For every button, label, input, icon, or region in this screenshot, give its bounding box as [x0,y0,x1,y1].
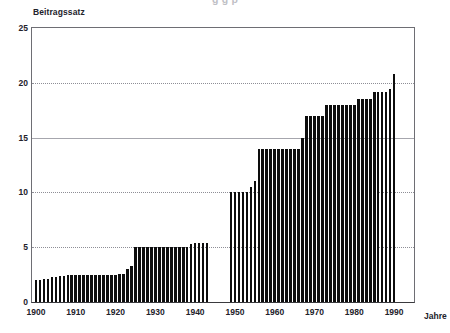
bar-1930 [154,247,157,302]
bar-1950 [234,192,237,302]
bar-1963 [285,149,288,302]
clipped-heading-text: g g p [0,0,450,5]
bar-1972 [321,116,324,302]
bar-1902 [43,279,46,302]
bar-1924 [130,266,133,302]
bar-1906 [59,276,62,302]
y-tick-5: 5 [23,242,28,252]
bar-1912 [82,275,85,302]
y-tick-15: 15 [19,133,28,143]
bar-1987 [381,92,384,302]
bar-1951 [238,192,241,302]
bar-1989 [389,89,392,302]
bar-1939 [190,244,193,302]
bar-1938 [186,247,189,302]
bar-1976 [337,105,340,302]
plot-area: 0510152025 19001910192019301940195019601… [31,27,415,303]
bar-1957 [261,149,264,302]
bar-1926 [138,247,141,302]
bar-1925 [134,247,137,302]
bar-1905 [55,277,58,302]
bar-1942 [202,243,205,302]
bar-1967 [301,138,304,302]
bar-1953 [246,192,249,302]
bar-1979 [349,105,352,302]
bar-1971 [317,116,320,302]
x-tick-1900: 1900 [27,307,46,317]
bar-1962 [281,149,284,302]
bar-1927 [142,247,145,302]
bar-1984 [369,99,372,302]
bar-1931 [158,247,161,302]
bar-1922 [122,274,125,302]
bar-1918 [106,275,109,302]
bar-1936 [178,247,181,302]
bar-1919 [110,275,113,302]
bar-1949 [230,192,233,302]
x-tick-1990: 1990 [385,307,404,317]
bar-1933 [166,247,169,302]
bar-1916 [98,275,101,302]
bar-1975 [333,105,336,302]
bar-1907 [63,276,66,302]
bar-1983 [365,99,368,302]
bar-1908 [67,275,70,302]
bar-1913 [86,275,89,302]
x-tick-1930: 1930 [146,307,165,317]
bar-1959 [269,149,272,302]
x-tick-1960: 1960 [265,307,284,317]
bar-1982 [361,99,364,302]
bar-1910 [74,275,77,302]
bar-1941 [198,243,201,302]
bar-1952 [242,192,245,302]
bar-1914 [90,275,93,302]
bar-1966 [297,149,300,302]
bar-1943 [206,243,209,302]
bar-1985 [373,92,376,302]
bar-1969 [309,116,312,302]
y-tick-0: 0 [23,297,28,307]
bar-1986 [377,92,380,302]
y-tick-25: 25 [19,23,28,33]
y-axis-label: Beitragssatz [33,7,85,17]
bar-1911 [78,275,81,302]
bar-1954 [250,187,253,302]
bar-1901 [39,280,42,302]
bar-1923 [126,269,129,302]
bar-1920 [114,275,117,302]
bar-1935 [174,247,177,302]
y-tick-20: 20 [19,78,28,88]
bar-1921 [118,274,121,302]
x-tick-1970: 1970 [305,307,324,317]
x-tick-1910: 1910 [66,307,85,317]
bar-1928 [146,247,149,302]
bar-1900 [35,280,38,302]
bar-1978 [345,105,348,302]
bar-1958 [265,149,268,302]
bar-1904 [51,277,54,302]
bar-1974 [329,105,332,302]
bar-1917 [102,275,105,302]
bar-1955 [254,181,257,302]
chart-figure: g g p Beitragssatz 0510152025 1900191019… [0,0,450,333]
bar-1909 [70,275,73,302]
bar-1960 [273,149,276,302]
bar-1968 [305,116,308,302]
bar-1903 [47,279,50,302]
bar-1980 [353,105,356,302]
x-axis-label: Jahre [424,311,447,321]
bar-1964 [289,149,292,302]
bar-1956 [258,149,261,302]
bar-1940 [194,243,197,302]
bar-1937 [182,247,185,302]
bar-1932 [162,247,165,302]
y-tick-10: 10 [19,187,28,197]
bar-1977 [341,105,344,302]
bar-1934 [170,247,173,302]
bar-1961 [277,149,280,302]
bar-1915 [94,275,97,302]
bar-1990 [393,74,396,302]
x-tick-1950: 1950 [225,307,244,317]
bar-1981 [357,99,360,302]
bar-1973 [325,105,328,302]
